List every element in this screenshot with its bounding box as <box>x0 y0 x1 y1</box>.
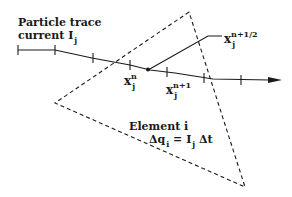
trace-current-label: current I <box>18 29 73 42</box>
label-x-n-plus-half: xjn+1/2 <box>224 33 258 45</box>
trace-title-line2: current Ij <box>18 30 77 41</box>
trace-current-subscript: j <box>74 35 77 45</box>
trace-arrowhead-icon <box>268 77 282 83</box>
particle-trace-line <box>18 50 270 80</box>
trace-title-line1: Particle trace <box>18 17 102 28</box>
midpoint-dot <box>146 68 150 72</box>
charge-equation: Δqi = Ij Δt <box>149 134 213 145</box>
label-x-n-plus-1: xjn+1 <box>166 84 191 96</box>
particle-trace-diagram: Particle trace current Ij xjn xjn+1 xjn+… <box>0 0 292 197</box>
element-name-label: Element i <box>129 121 188 132</box>
midpoint-pointer-line <box>148 36 222 70</box>
label-x-n: xjn <box>124 75 137 87</box>
element-triangle <box>55 12 245 187</box>
